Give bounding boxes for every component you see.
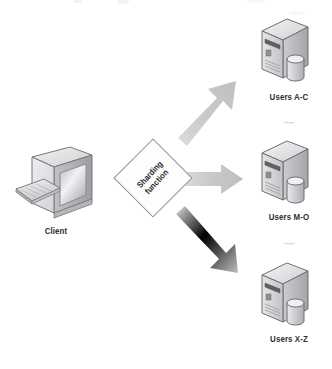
server-tower-icon-2	[257, 139, 313, 209]
shard-ellipsis-1: ····	[249, 119, 329, 128]
server-tower-icon-1	[257, 17, 313, 87]
client-icon	[14, 143, 98, 225]
database-cylinder-icon-2	[287, 177, 304, 203]
server-power-button	[266, 172, 271, 178]
server-power-button	[266, 294, 271, 300]
sharding-function-node: Sharding function	[116, 141, 190, 215]
client-label: Client	[21, 226, 92, 236]
sharding-function-label: Sharding function	[101, 126, 206, 231]
arrow-to-shard-1	[178, 81, 236, 146]
arrow-to-shard-3	[176, 206, 238, 273]
server-tower-icon-3	[257, 261, 313, 331]
database-cylinder-icon-3	[287, 299, 304, 325]
shard-label-1: Users A-C	[252, 92, 326, 102]
database-cylinder-icon-1	[287, 55, 304, 81]
shard-label-2: Users M-O	[252, 212, 326, 222]
diagram-canvas: Client Sharding function	[0, 0, 332, 369]
shard-label-3: Users X-Z	[252, 334, 326, 344]
server-power-button	[266, 50, 271, 56]
shard-ellipsis-2: ····	[249, 240, 329, 249]
